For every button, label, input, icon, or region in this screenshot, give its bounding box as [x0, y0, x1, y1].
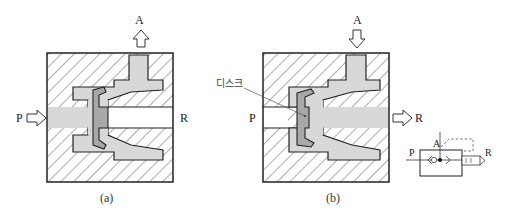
port-a-label: A: [135, 14, 144, 26]
symbol-r-label: R: [485, 148, 492, 158]
port-p-label: P: [249, 112, 256, 124]
symbol-body: [420, 150, 462, 176]
pilot-dashed-line: [441, 139, 473, 151]
valve-b: [244, 30, 412, 182]
arrow-up-icon: [133, 30, 149, 47]
diagram-canvas: [0, 0, 510, 214]
valve-b-exhaust-channel: [320, 107, 388, 128]
disc-label: 디스크: [216, 79, 243, 89]
symbol-a-label: A: [433, 139, 440, 149]
arrow-right-icon: [393, 110, 412, 126]
valve-a-inlet-channel: [48, 107, 88, 128]
arrow-right-icon: [27, 110, 46, 126]
arrow-down-icon: [349, 30, 365, 48]
valve-a-exhaust-channel: [108, 107, 172, 128]
port-r-label: R: [180, 112, 188, 124]
valve-a: [27, 30, 173, 182]
port-p-label: P: [16, 112, 23, 124]
caption-b: (b): [326, 192, 340, 204]
port-r-label: R: [415, 112, 423, 124]
valve-symbol: [406, 132, 485, 176]
symbol-p-label: P: [409, 148, 415, 158]
port-a-label: A: [353, 14, 362, 26]
caption-a: (a): [100, 192, 113, 204]
